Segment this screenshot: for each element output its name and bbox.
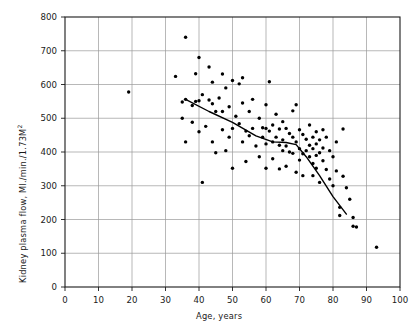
svg-text:60: 60	[261, 295, 272, 305]
svg-text:80: 80	[328, 295, 339, 305]
svg-text:500: 500	[41, 113, 57, 123]
svg-text:300: 300	[41, 181, 57, 191]
svg-text:600: 600	[41, 80, 57, 90]
svg-text:0: 0	[52, 282, 57, 292]
svg-text:50: 50	[227, 295, 238, 305]
svg-text:0: 0	[62, 295, 67, 305]
svg-text:20: 20	[127, 295, 138, 305]
svg-text:100: 100	[392, 295, 408, 305]
svg-text:10: 10	[93, 295, 104, 305]
svg-text:70: 70	[294, 295, 305, 305]
svg-text:40: 40	[194, 295, 205, 305]
svg-text:200: 200	[41, 215, 57, 225]
axis-tick-labels: 0102030405060708090100010020030040050060…	[41, 12, 409, 305]
svg-text:800: 800	[41, 12, 57, 22]
scatter-plot-figure: Kidney plasma flow, Ml./min./1.73M2 0102…	[0, 0, 420, 334]
data-points	[127, 36, 378, 249]
svg-text:700: 700	[41, 46, 57, 56]
gridlines	[65, 17, 400, 287]
svg-text:90: 90	[361, 295, 372, 305]
svg-text:30: 30	[160, 295, 171, 305]
axis-ticks	[61, 17, 400, 291]
x-axis-label: Age, years	[196, 311, 242, 321]
svg-text:400: 400	[41, 147, 57, 157]
svg-text:100: 100	[41, 248, 57, 258]
plot-canvas: 0102030405060708090100010020030040050060…	[0, 0, 420, 334]
